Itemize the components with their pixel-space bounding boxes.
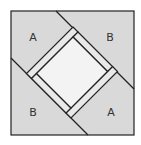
label-bottom-left: B	[29, 106, 37, 119]
quilt-block-diagram: A B B A	[0, 0, 141, 145]
label-top-left: A	[29, 31, 37, 44]
label-bottom-right: A	[107, 106, 115, 119]
label-top-right: B	[106, 31, 114, 44]
